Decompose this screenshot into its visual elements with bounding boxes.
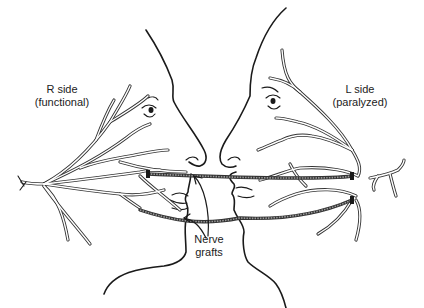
- nerve-graft-illustration: [0, 0, 424, 308]
- nerve-grafts-line2: grafts: [186, 246, 232, 259]
- nerve-stump: [370, 160, 404, 196]
- nerve-grafts-label: Nerve grafts: [186, 233, 232, 259]
- right-face-profile: [220, 8, 286, 308]
- left-face-nerves: [18, 86, 186, 244]
- right-side-title: R side: [32, 83, 92, 96]
- nerve-grafts: [140, 170, 354, 222]
- nerve-grafts-line1: Nerve: [186, 233, 232, 246]
- right-side-label: R side (functional): [32, 83, 92, 109]
- left-side-title: L side: [328, 83, 392, 96]
- left-side-subtitle: (paralyzed): [328, 96, 392, 109]
- right-face-nerves: [258, 50, 360, 240]
- left-side-label: L side (paralyzed): [328, 83, 392, 109]
- right-side-subtitle: (functional): [32, 96, 92, 109]
